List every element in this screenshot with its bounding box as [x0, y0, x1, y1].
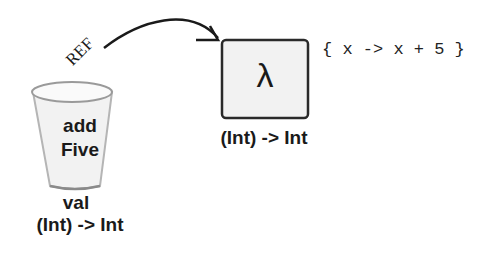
lambda-body: { x -> x + 5 }	[322, 40, 465, 59]
variable-name-line1: add	[44, 114, 116, 138]
variable-name: add Five	[44, 114, 116, 162]
variable-name-line2: Five	[44, 138, 116, 162]
reference-arrow-icon	[104, 20, 218, 48]
lambda-symbol: λ	[222, 56, 308, 95]
lambda-type: (Int) -> Int	[204, 127, 324, 149]
variable-type: (Int) -> Int	[20, 214, 140, 236]
variable-keyword: val	[36, 192, 116, 214]
